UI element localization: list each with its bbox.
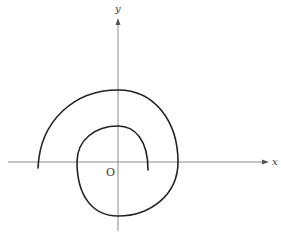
spiral-curve: [38, 90, 178, 216]
origin-label: O: [106, 166, 115, 179]
spiral-diagram: x y O: [0, 0, 281, 244]
x-axis-arrow-icon: [262, 160, 269, 165]
x-axis-label: x: [272, 156, 278, 167]
y-axis-label: y: [114, 3, 121, 14]
y-axis-arrow-icon: [116, 18, 121, 25]
